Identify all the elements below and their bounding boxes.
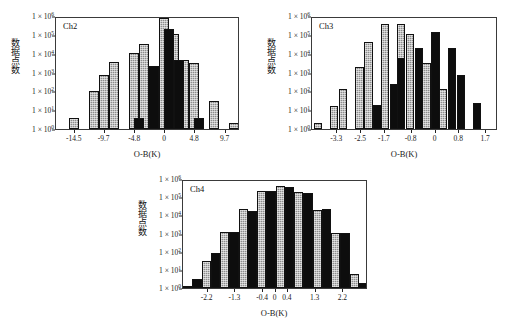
histogram-bar — [303, 193, 312, 288]
x-tick-mark — [384, 130, 385, 133]
y-tick-label: 1 × 101 — [159, 267, 181, 275]
x-tick-label: 9.7 — [220, 135, 229, 143]
histogram-bar — [220, 232, 229, 288]
y-tick-label: 1 × 103 — [159, 231, 181, 239]
histogram-bar — [285, 187, 294, 288]
y-tick-label: 1 × 106 — [159, 176, 181, 184]
x-tick-mark — [342, 289, 343, 292]
y-tick-mark — [52, 73, 55, 74]
histogram-bar — [422, 63, 430, 129]
x-tick-label: 1.7 — [480, 135, 489, 143]
y-axis-ticks-ch3: 1 × 1061 × 1051 × 1041 × 1031 × 1021 × 1… — [270, 0, 310, 166]
histogram-bar — [381, 24, 389, 129]
x-tick-label: 0 — [433, 135, 437, 143]
x-tick-label: 0 — [273, 294, 277, 302]
x-tick-mark — [485, 130, 486, 133]
histogram-bar — [473, 103, 481, 129]
x-tick-label: -14.5 — [66, 135, 82, 143]
x-tick-label: 0.8 — [454, 135, 463, 143]
x-tick-label: -0.4 — [256, 294, 268, 302]
histogram-bar — [350, 274, 359, 288]
histogram-bar — [431, 32, 439, 129]
histogram-bar — [89, 91, 99, 129]
x-tick-label: 4.8 — [189, 135, 198, 143]
x-tick-label: -3.3 — [330, 135, 342, 143]
y-tick-label: 1 × 104 — [288, 51, 310, 59]
x-tick-mark — [194, 130, 195, 133]
x-axis-label-ch3: O-B(K) — [391, 150, 417, 159]
chart-panel-ch3: 数据点数 1 × 1061 × 1051 × 1041 × 1031 × 102… — [256, 0, 516, 166]
x-tick-label: 2.2 — [338, 294, 347, 302]
histogram-bar — [314, 123, 322, 129]
y-tick-label: 1 × 104 — [32, 51, 54, 59]
y-tick-label: 1 × 104 — [159, 213, 181, 221]
histogram-bar — [149, 66, 159, 129]
histogram-bar — [174, 60, 184, 129]
histogram-bar — [257, 191, 266, 288]
bars-ch4 — [183, 181, 366, 288]
x-tick-mark — [435, 130, 436, 133]
histogram-bar — [359, 283, 367, 288]
histogram-bar — [229, 123, 239, 129]
y-tick-mark — [308, 73, 311, 74]
plot-area-ch4 — [182, 180, 367, 289]
histogram-bar — [439, 89, 447, 129]
x-tick-mark — [458, 130, 459, 133]
x-tick-mark — [336, 130, 337, 133]
y-tick-label: 1 × 100 — [288, 126, 310, 134]
x-tick-label: -0.8 — [405, 135, 417, 143]
x-tick-label: -2.5 — [354, 135, 366, 143]
x-tick-mark — [164, 130, 165, 133]
histogram-bar — [373, 105, 381, 129]
x-tick-label: -9.7 — [98, 135, 110, 143]
histogram-bar — [229, 232, 238, 288]
histogram-bar — [448, 48, 456, 129]
histogram-bar — [415, 48, 423, 129]
x-tick-mark — [74, 130, 75, 133]
x-axis-label-ch2: O-B(K) — [134, 150, 160, 159]
y-tick-label: 1 × 105 — [32, 32, 54, 40]
histogram-bar — [397, 58, 405, 129]
x-tick-mark — [225, 130, 226, 133]
x-tick-mark — [287, 289, 288, 292]
panel-title-ch4: Ch4 — [190, 184, 204, 194]
x-tick-mark — [360, 130, 361, 133]
histogram-bar — [164, 29, 174, 129]
histogram-bar — [294, 192, 303, 288]
y-tick-label: 1 × 101 — [32, 107, 54, 115]
y-tick-mark — [52, 130, 55, 131]
x-tick-mark — [315, 289, 316, 292]
x-tick-label: -1.3 — [228, 294, 240, 302]
y-tick-label: 1 × 102 — [159, 249, 181, 257]
histogram-bar — [202, 261, 211, 288]
y-tick-label: 1 × 106 — [32, 13, 54, 21]
y-tick-mark — [308, 111, 311, 112]
histogram-bar — [211, 253, 220, 289]
y-tick-mark — [308, 35, 311, 36]
histogram-bar — [406, 34, 414, 129]
histogram-bar — [364, 42, 372, 129]
y-tick-mark — [52, 54, 55, 55]
y-tick-label: 1 × 100 — [159, 285, 181, 293]
y-tick-mark — [52, 92, 55, 93]
y-tick-mark — [179, 289, 182, 290]
y-tick-mark — [52, 17, 55, 18]
histogram-bar — [248, 211, 257, 288]
panel-title-ch3: Ch3 — [319, 21, 333, 31]
y-axis-ticks-ch2: 1 × 1061 × 1051 × 1041 × 1031 × 1021 × 1… — [14, 0, 54, 166]
histogram-bar — [313, 210, 322, 288]
y-tick-mark — [52, 111, 55, 112]
x-tick-mark — [411, 130, 412, 133]
y-tick-label: 1 × 105 — [159, 194, 181, 202]
x-tick-label: -2.2 — [201, 294, 213, 302]
y-tick-mark — [179, 216, 182, 217]
y-axis-ticks-ch4: 1 × 1061 × 1051 × 1041 × 1031 × 1021 × 1… — [141, 168, 181, 323]
y-tick-label: 1 × 106 — [288, 13, 310, 21]
histogram-bar — [339, 89, 347, 129]
x-tick-label: 0 — [162, 135, 166, 143]
y-tick-label: 1 × 100 — [32, 126, 54, 134]
histogram-bar — [331, 233, 340, 288]
x-tick-label: 0.4 — [282, 294, 291, 302]
x-axis-label-ch4: O-B(K) — [261, 309, 287, 318]
y-tick-label: 1 × 101 — [288, 107, 310, 115]
